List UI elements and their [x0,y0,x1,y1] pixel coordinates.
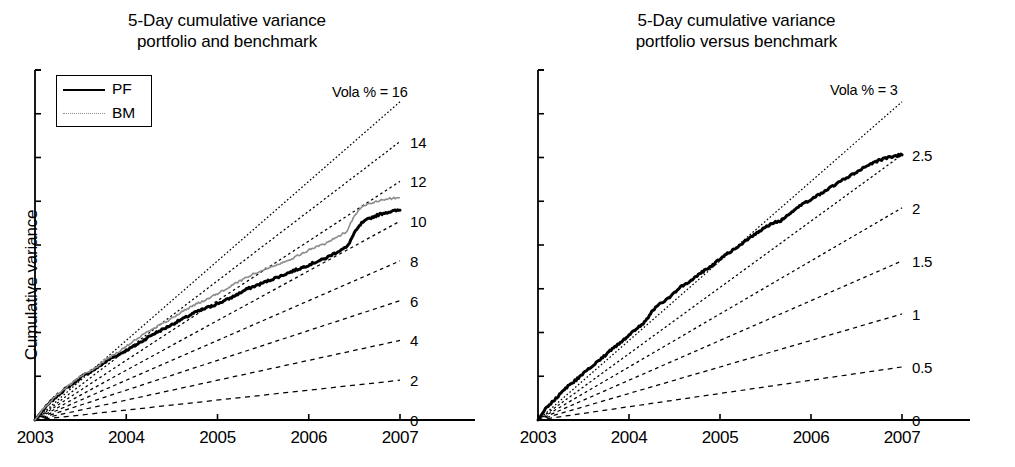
iso-vola-reference-line [538,155,902,420]
x-tick-label: 2006 [290,428,327,448]
vola-level-label: 0.5 [912,358,932,375]
vola-head-label: Vola % = 3 [830,82,898,98]
x-tick-label: 2003 [17,428,54,448]
legend-left: PF BM [56,75,152,127]
x-tick-label: 2007 [884,428,921,448]
chart-panel-left: 5-Day cumulative variance portfolio and … [0,0,490,467]
vola-level-label: 2 [912,199,920,216]
vola-level-label: 1.5 [912,252,932,269]
x-tick-label: 2006 [793,428,830,448]
legend-label-bm: BM [112,104,135,122]
legend-swatch-pf-icon [63,84,105,94]
x-tick-label: 2005 [702,428,739,448]
vola-level-label: 12 [410,173,426,190]
vola-level-label: 2.5 [912,146,932,163]
vola-level-label: 4 [410,332,418,349]
plot-area-left [0,0,490,467]
figure-container: 5-Day cumulative variance portfolio and … [0,0,1015,467]
iso-vola-reference-line [35,340,400,420]
legend-item-bm: BM [57,100,151,126]
series-line-pf [35,210,400,420]
iso-vola-reference-line [538,261,902,420]
x-tick-label: 2004 [108,428,145,448]
vola-level-label: 14 [410,133,426,150]
iso-vola-reference-line [538,367,902,420]
legend-label-pf: PF [112,80,131,98]
x-tick-label: 2005 [199,428,236,448]
iso-vola-reference-line [35,261,400,420]
x-tick-label: 2004 [611,428,648,448]
legend-swatch-bm-icon [63,108,105,118]
vola-level-label: 0 [410,412,418,429]
iso-vola-reference-line [35,301,400,420]
iso-vola-reference-line [35,142,400,420]
x-tick-label: 2003 [520,428,557,448]
iso-vola-reference-line [538,208,902,420]
vola-level-label: 2 [410,372,418,389]
iso-vola-reference-line [35,181,400,420]
vola-level-label: 0 [912,412,920,429]
vola-level-label: 10 [410,213,426,230]
vola-head-label: Vola % = 16 [332,84,408,100]
vola-level-label: 6 [410,292,418,309]
vola-level-label: 1 [912,305,920,322]
vola-level-label: 8 [410,252,418,269]
iso-vola-reference-line [35,221,400,420]
legend-item-pf: PF [57,76,151,102]
plot-area-right [490,0,1015,467]
chart-panel-right: 5-Day cumulative variance portfolio vers… [490,0,1015,467]
x-tick-label: 2007 [382,428,419,448]
